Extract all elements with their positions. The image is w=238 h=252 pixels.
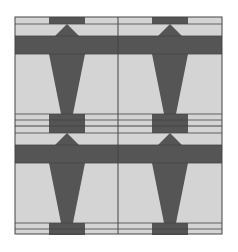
bottom-left-top-bar — [49, 126, 85, 133]
top-left-band — [15, 36, 118, 54]
top-left-top-bar — [49, 17, 85, 24]
bottom-left-band — [15, 145, 118, 163]
bottom-right-top-bar — [152, 126, 188, 133]
tiled-pattern-diagram — [0, 0, 238, 252]
top-right-top-bar — [152, 17, 188, 24]
top-right-band — [118, 36, 222, 54]
bottom-right-band — [118, 145, 222, 163]
